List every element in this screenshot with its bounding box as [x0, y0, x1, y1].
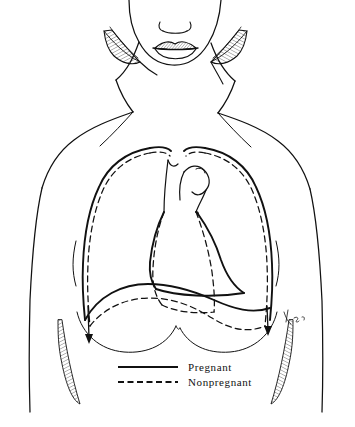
legend-label-nonpregnant: Nonpregnant: [188, 376, 252, 388]
illustration-page: Pregnant Nonpregnant: [0, 0, 355, 427]
canvas-background: [0, 0, 355, 427]
legend-label-pregnant: Pregnant: [188, 361, 232, 373]
anatomical-illustration: Pregnant Nonpregnant: [0, 0, 355, 427]
